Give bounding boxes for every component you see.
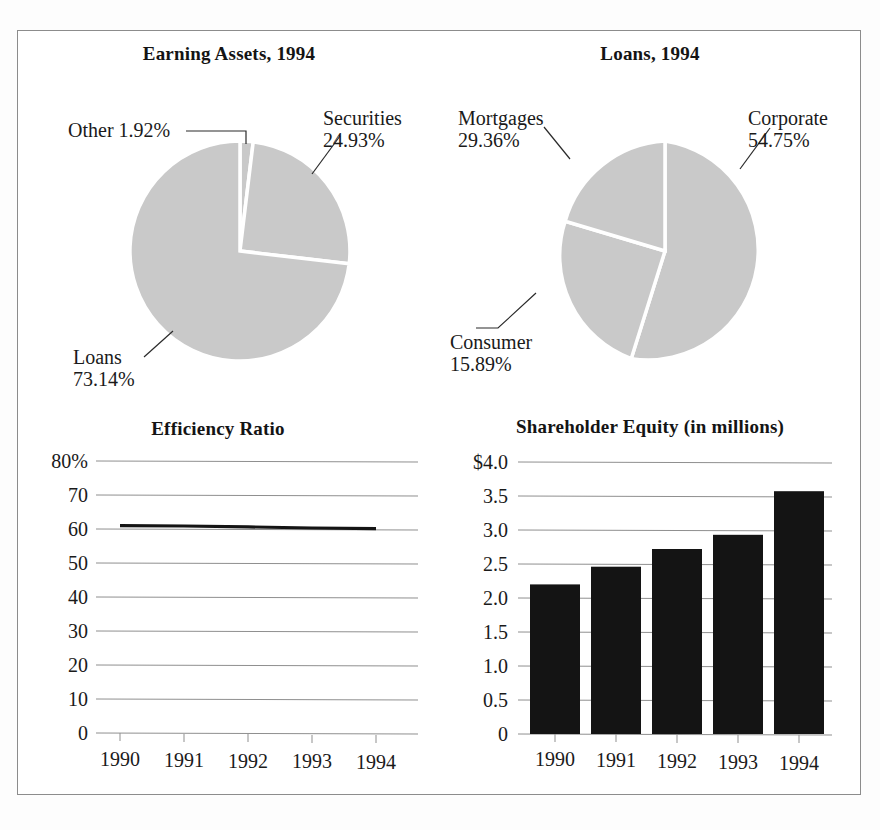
leader-line-loans <box>144 331 173 357</box>
pie-label-mortgages-line1: Mortgages <box>458 107 544 129</box>
ytick-efficiency-10: 10 <box>26 688 88 711</box>
pie-slice-securities[interactable] <box>240 142 350 264</box>
pie-label-loans-line1: Loans <box>73 346 122 368</box>
pie-label-consumer: Consumer 15.89% <box>450 331 532 376</box>
pie-label-corporate-line2: 54.75% <box>748 129 828 151</box>
ytick-equity-3_0: 3.0 <box>440 519 508 542</box>
ytick-equity-0: 0 <box>440 723 508 746</box>
ytick-equity-1_5: 1.5 <box>440 621 508 644</box>
bar-1993[interactable] <box>713 535 763 734</box>
figure-page: Earning Assets, 1994 Other 1.92% Securit… <box>0 0 880 830</box>
efficiency-x-ticks <box>120 733 376 743</box>
xtick-equity-1994: 1994 <box>759 752 839 775</box>
pie-label-other: Other 1.92% <box>68 119 170 141</box>
panel-efficiency-ratio: Efficiency Ratio <box>18 416 440 796</box>
leader-line-mortgages <box>544 127 570 159</box>
ytick-efficiency-0: 0 <box>26 722 88 745</box>
panel-earning-assets: Earning Assets, 1994 Other 1.92% Securit… <box>18 31 440 421</box>
panel-shareholder-equity: Shareholder Equity (in millions) <box>440 416 860 796</box>
ytick-equity-2_0: 2.0 <box>440 587 508 610</box>
ytick-equity-4_0: $4.0 <box>440 451 508 474</box>
equity-x-ticks <box>555 734 799 743</box>
pie-label-securities-line1: Securities <box>323 107 402 129</box>
bar-1990[interactable] <box>530 584 580 734</box>
ytick-efficiency-30: 30 <box>26 620 88 643</box>
leader-line-consumer <box>476 293 536 328</box>
pie-label-consumer-line1: Consumer <box>450 331 532 353</box>
pie-label-mortgages-line2: 29.36% <box>458 129 544 151</box>
pie-label-corporate-line1: Corporate <box>748 107 828 129</box>
xtick-efficiency-1994: 1994 <box>336 751 416 774</box>
bar-1992[interactable] <box>652 549 702 734</box>
pie-label-securities-line2: 24.93% <box>323 129 402 151</box>
ytick-efficiency-60: 60 <box>26 518 88 541</box>
ytick-efficiency-40: 40 <box>26 586 88 609</box>
ytick-equity-3_5: 3.5 <box>440 485 508 508</box>
ytick-equity-0_5: 0.5 <box>440 689 508 712</box>
pie-label-mortgages: Mortgages 29.36% <box>458 107 544 152</box>
figure-frame: Earning Assets, 1994 Other 1.92% Securit… <box>17 30 861 795</box>
pie-label-securities: Securities 24.93% <box>323 107 402 152</box>
pie-label-loans-line2: 73.14% <box>73 368 135 390</box>
pie-label-consumer-line2: 15.89% <box>450 353 532 375</box>
panel-loans: Loans, 1994 Mortgages 29.36% Corporate <box>440 31 860 421</box>
pie-label-loans: Loans 73.14% <box>73 346 135 391</box>
ytick-efficiency-50: 50 <box>26 552 88 575</box>
ytick-equity-1_0: 1.0 <box>440 655 508 678</box>
pie-label-corporate: Corporate 54.75% <box>748 107 828 152</box>
ytick-efficiency-80: 80% <box>26 450 88 473</box>
bar-1991[interactable] <box>591 567 641 734</box>
pie-label-other-line1: Other 1.92% <box>68 119 170 141</box>
ytick-efficiency-70: 70 <box>26 484 88 507</box>
efficiency-data-line[interactable] <box>120 526 376 529</box>
ytick-equity-2_5: 2.5 <box>440 553 508 576</box>
efficiency-gridlines <box>96 461 418 734</box>
bar-1994[interactable] <box>774 491 824 734</box>
ytick-efficiency-20: 20 <box>26 654 88 677</box>
